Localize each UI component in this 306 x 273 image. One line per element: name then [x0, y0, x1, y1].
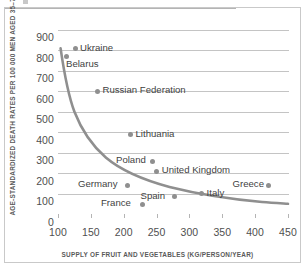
y-tick-label-400: 400: [14, 134, 54, 146]
plot-area: Ukraine Belarus Russian Federation Lithu…: [58, 30, 289, 214]
x-tick-label-450: 450: [268, 226, 306, 238]
y-tick-label-900: 900: [14, 31, 54, 43]
data-label-united-kingdom: United Kingdom: [162, 164, 230, 175]
scan-artifact: [23, 0, 28, 4]
data-label-italy: Italy: [207, 187, 225, 198]
y-tick-label-800: 800: [14, 52, 54, 64]
x-tick-300: [189, 214, 190, 218]
data-label-ukraine: Ukraine: [80, 42, 113, 53]
chart-frame: AGE-STANDARDIZED DEATH RATES PER 100 000…: [4, 7, 301, 263]
y-axis-title-wrapper: AGE-STANDARDIZED DEATH RATES PER 100 000…: [5, 8, 25, 248]
x-tick-200: [124, 214, 125, 218]
data-label-greece: Greece: [233, 178, 264, 189]
data-point-ukraine[interactable]: [73, 46, 78, 51]
x-tick-450: [288, 214, 289, 218]
data-label-germany: Germany: [78, 178, 117, 189]
y-tick-label-600: 600: [14, 93, 54, 105]
x-tick-100: [58, 214, 59, 218]
x-tick-150: [91, 214, 92, 218]
data-point-france[interactable]: [140, 202, 145, 207]
x-tick-250: [157, 214, 158, 218]
y-tick-label-100: 100: [14, 195, 54, 207]
y-tick-label-300: 300: [14, 154, 54, 166]
data-label-lithuania: Lithuania: [136, 128, 175, 139]
x-tick-400: [255, 214, 256, 218]
y-tick-label-200: 200: [14, 175, 54, 187]
data-point-poland[interactable]: [150, 159, 155, 164]
data-label-poland: Poland: [116, 154, 146, 165]
y-tick-label-500: 500: [14, 113, 54, 125]
x-tick-350: [222, 214, 223, 218]
data-label-belarus: Belarus: [66, 58, 99, 69]
x-axis-title: SUPPLY OF FRUIT AND VEGETABLES (KG/PERSO…: [9, 251, 306, 258]
x-axis-line: [5, 8, 236, 9]
data-label-russian-federation: Russian Federation: [103, 84, 186, 95]
data-point-russian-federation[interactable]: [95, 89, 100, 94]
y-tick-label-700: 700: [14, 72, 54, 84]
scatter-chart-figure: AGE-STANDARDIZED DEATH RATES PER 100 000…: [0, 0, 306, 273]
data-label-france: France: [101, 197, 131, 208]
data-label-spain: Spain: [141, 190, 166, 201]
